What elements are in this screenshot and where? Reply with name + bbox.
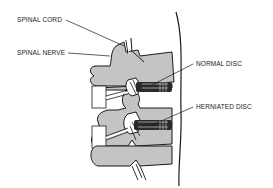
label-normal-disc: NORMAL DISC [196,60,242,68]
label-spinal-cord: SPINAL CORD [17,16,62,24]
facet-joint-lower [92,126,106,148]
body-outline-curve [176,12,181,186]
label-herniated-disc: HERNIATED DISC [196,103,252,111]
facet-joint-upper [92,86,106,108]
spinal-nerve-bottom [132,164,146,180]
spine-diagram [0,0,273,188]
leader-spinal-nerve [68,53,110,56]
leader-spinal-cord [66,20,124,46]
vertebra-bottom [91,146,172,166]
label-spinal-nerve: SPINAL NERVE [17,49,65,57]
